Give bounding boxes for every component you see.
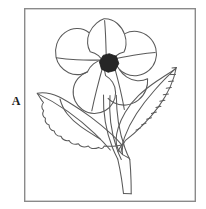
figure-root: A	[0, 0, 206, 209]
flower-center-disc	[99, 54, 118, 73]
botanical-illustration	[0, 0, 206, 209]
plate-label-a: A	[8, 93, 24, 109]
